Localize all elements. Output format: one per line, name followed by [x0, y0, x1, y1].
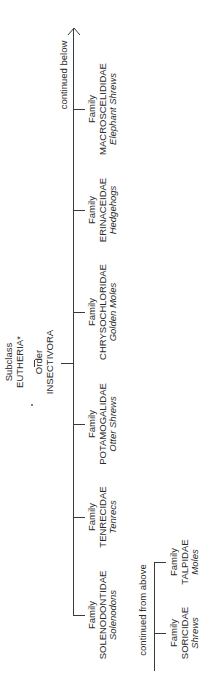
continued-below-label: continued below — [59, 35, 70, 115]
order-label: Order — [34, 317, 45, 407]
family-label: Family — [87, 560, 98, 670]
family-chrysochloridae: Family CHRYSOCHLORIDAE Golden Moles — [87, 257, 119, 367]
family-soricidae: Family SORICIDAE Shrews — [169, 593, 201, 673]
family-common-name: Tenrecs — [108, 462, 119, 572]
tick-chrysochloridae — [73, 312, 85, 313]
family-common-name: Elephant Shrews — [108, 54, 119, 164]
tick-erinaceidae — [73, 210, 85, 211]
family-erinaceidae: Family ERINACEIDAE Hedgehogs — [87, 155, 119, 265]
tick-talpidae — [154, 562, 166, 563]
tick-potamogalidae — [73, 424, 85, 425]
family-label: Family — [87, 155, 98, 265]
main-trunk-line — [73, 28, 74, 616]
family-talpidae: Family TALPIDAE Moles — [169, 522, 201, 602]
continued-from-above-text: continued from above — [138, 555, 149, 665]
family-common-name: Golden Moles — [108, 257, 119, 367]
continued-from-above-label: continued from above — [138, 555, 149, 665]
order-name: INSECTIVORA — [45, 317, 56, 407]
order-connector — [61, 363, 73, 364]
family-common-name: Shrews — [190, 593, 201, 673]
family-common-name: Moles — [190, 522, 201, 602]
stray-dot — [31, 404, 33, 406]
tick-solenodontidae — [73, 615, 85, 616]
family-label: Family — [169, 522, 180, 602]
tick-tenrecidae — [73, 517, 85, 518]
family-label: Family — [87, 257, 98, 367]
family-common-name: Hedgehogs — [108, 155, 119, 265]
tick-soricidae — [154, 633, 166, 634]
subclass-label: Subclass — [4, 317, 15, 407]
family-label: Family — [87, 462, 98, 572]
tick-macroscelididae — [73, 109, 85, 110]
family-tenrecidae: Family TENRECIDAE Tenrecs — [87, 462, 119, 572]
family-label: Family — [87, 54, 98, 164]
root-label: Subclass EUTHERIA* Order INSECTIVORA — [4, 317, 55, 407]
family-label: Family — [169, 593, 180, 673]
family-macroscelididae: Family MACROSCELIDIDAE Elephant Shrews — [87, 54, 119, 164]
family-solenodontidae: Family SOLENODONTIDAE Solenodons — [87, 560, 119, 670]
continued-trunk-line — [154, 562, 155, 671]
continued-below-text: continued below — [59, 35, 70, 115]
subclass-name: EUTHERIA* — [15, 317, 26, 407]
family-common-name: Solenodons — [108, 560, 119, 670]
